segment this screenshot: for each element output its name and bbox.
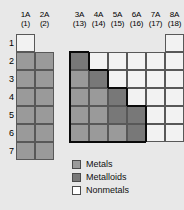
cell-8A-2	[165, 52, 184, 70]
cell-1A-4	[16, 88, 35, 106]
cell-6A-2	[127, 52, 146, 70]
cell-4A-6	[89, 124, 108, 142]
cell-8A-5	[165, 106, 184, 124]
row-label-5: 5	[4, 106, 14, 124]
cell-1A-6	[16, 124, 35, 142]
stair-top-6A-r5	[127, 105, 146, 107]
row-label-3: 3	[4, 70, 14, 88]
cell-4A-2	[89, 52, 108, 70]
stair-top-3A	[70, 51, 89, 53]
column-group-label: 2A	[35, 10, 54, 19]
cell-3A-2	[70, 52, 89, 70]
row-label-1: 1	[4, 34, 14, 52]
cell-1A-1	[16, 34, 35, 52]
cell-6A-4	[127, 88, 146, 106]
column-header-5A: 5A(15)	[108, 10, 127, 28]
cell-6A-5	[127, 106, 146, 124]
legend-label-metal: Metals	[86, 159, 113, 170]
stair-right-3A-r2	[88, 52, 90, 70]
legend-swatch-metalloid	[72, 173, 81, 182]
legend: MetalsMetalloidsNonmetals	[72, 158, 129, 197]
cell-8A-3	[165, 70, 184, 88]
column-header-6A: 6A(16)	[127, 10, 146, 28]
column-header-4A: 4A(14)	[89, 10, 108, 28]
column-header-7A: 7A(17)	[146, 10, 165, 28]
stair-top-4A-r3	[89, 69, 108, 71]
cell-4A-4	[89, 88, 108, 106]
cell-5A-6	[108, 124, 127, 142]
column-group-label: 3A	[70, 10, 89, 19]
cell-7A-4	[146, 88, 165, 106]
cell-2A-2	[35, 52, 54, 70]
stair-right-5A-r4	[126, 88, 128, 106]
cell-6A-6	[127, 124, 146, 142]
column-group-label: 4A	[89, 10, 108, 19]
column-group-label: 5A	[108, 10, 127, 19]
column-group-label: 1A	[16, 10, 35, 19]
legend-label-metalloid: Metalloids	[86, 172, 127, 183]
row-label-4: 4	[4, 88, 14, 106]
column-group-label: 7A	[146, 10, 165, 19]
cell-2A-4	[35, 88, 54, 106]
column-iupac-label: (13)	[70, 19, 89, 28]
cell-1A-5	[16, 106, 35, 124]
column-iupac-label: (18)	[165, 19, 184, 28]
stair-right-4A-r3	[107, 70, 109, 88]
cell-1A-2	[16, 52, 35, 70]
legend-item-nonmetal: Nonmetals	[72, 184, 129, 197]
column-iupac-label: (15)	[108, 19, 127, 28]
legend-swatch-nonmetal	[72, 186, 81, 195]
legend-label-nonmetal: Nonmetals	[86, 185, 129, 196]
stair-bottom	[69, 141, 146, 143]
column-header-3A: 3A(13)	[70, 10, 89, 28]
cell-5A-2	[108, 52, 127, 70]
cell-3A-6	[70, 124, 89, 142]
cell-2A-6	[35, 124, 54, 142]
row-label-2: 2	[4, 52, 14, 70]
row-label-7: 7	[4, 142, 14, 160]
column-header-1A: 1A(1)	[16, 10, 35, 28]
column-iupac-label: (14)	[89, 19, 108, 28]
column-header-8A: 8A(18)	[165, 10, 184, 28]
periodic-table-diagram: 1A(1)2A(2)3A(13)4A(14)5A(15)6A(16)7A(17)…	[0, 0, 184, 210]
column-iupac-label: (16)	[127, 19, 146, 28]
cell-6A-3	[127, 70, 146, 88]
legend-item-metalloid: Metalloids	[72, 171, 129, 184]
column-header-2A: 2A(2)	[35, 10, 54, 28]
cell-2A-3	[35, 70, 54, 88]
column-iupac-label: (1)	[16, 19, 35, 28]
cell-5A-4	[108, 88, 127, 106]
row-label-6: 6	[4, 124, 14, 142]
cell-3A-3	[70, 70, 89, 88]
cell-2A-7	[35, 142, 54, 160]
cell-7A-5	[146, 106, 165, 124]
legend-item-metal: Metals	[72, 158, 129, 171]
cell-4A-5	[89, 106, 108, 124]
cell-1A-7	[16, 142, 35, 160]
stair-left-edge	[69, 51, 71, 142]
cell-5A-3	[108, 70, 127, 88]
cell-5A-5	[108, 106, 127, 124]
cell-8A-1	[165, 34, 184, 52]
cell-7A-2	[146, 52, 165, 70]
cell-7A-3	[146, 70, 165, 88]
cell-4A-3	[89, 70, 108, 88]
cell-7A-6	[146, 124, 165, 142]
column-iupac-label: (2)	[35, 19, 54, 28]
stair-top-5A-r4	[108, 87, 127, 89]
column-group-label: 6A	[127, 10, 146, 19]
column-group-label: 8A	[165, 10, 184, 19]
cell-8A-4	[165, 88, 184, 106]
legend-swatch-metal	[72, 160, 81, 169]
stair-right-6A	[145, 106, 147, 142]
cell-1A-3	[16, 70, 35, 88]
column-iupac-label: (17)	[146, 19, 165, 28]
cell-2A-5	[35, 106, 54, 124]
cell-3A-4	[70, 88, 89, 106]
cell-8A-6	[165, 124, 184, 142]
cell-3A-5	[70, 106, 89, 124]
